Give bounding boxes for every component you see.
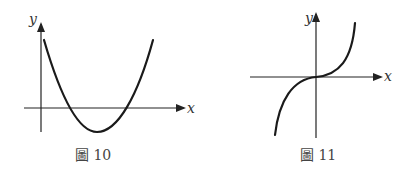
parabola-curve	[44, 40, 153, 132]
figure-11-caption: 圖 11	[300, 144, 336, 164]
cubic-curve	[275, 23, 355, 135]
x-axis-label: x	[384, 68, 392, 84]
y-axis-label: y	[28, 11, 38, 27]
figure-11: y x 圖 11	[205, 0, 411, 173]
y-axis-label: y	[304, 10, 314, 26]
x-axis-label: x	[187, 100, 195, 116]
figure-10: y x 圖 10	[0, 0, 205, 173]
figure-10-caption: 圖 10	[75, 144, 111, 164]
